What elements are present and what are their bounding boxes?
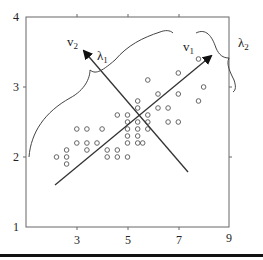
scatter-points <box>54 57 206 167</box>
v2-label: v2 <box>67 34 78 51</box>
data-point <box>64 148 69 153</box>
data-point <box>100 127 105 132</box>
data-point <box>146 78 151 83</box>
x-tick-label: 5 <box>125 233 131 247</box>
data-point <box>115 148 120 153</box>
data-point <box>64 155 69 160</box>
data-point <box>196 99 201 104</box>
x-tick-labels: 3 5 7 9 <box>74 231 232 247</box>
data-point <box>125 134 130 139</box>
data-point <box>135 120 140 125</box>
data-point <box>115 113 120 118</box>
data-point <box>156 92 161 97</box>
v1-arrow <box>55 56 211 185</box>
y-tick-label: 3 <box>13 80 19 94</box>
x-tick-label: 3 <box>74 233 80 247</box>
bottom-rule <box>0 254 263 257</box>
data-point <box>105 155 110 160</box>
x-tick-label: 9 <box>226 231 232 245</box>
data-point <box>125 141 130 146</box>
v2-arrow <box>84 51 188 172</box>
data-point <box>166 120 171 125</box>
data-point <box>176 120 181 125</box>
lambda1-label: λ1 <box>97 48 108 65</box>
data-point <box>135 127 140 132</box>
data-point <box>176 92 181 97</box>
data-point <box>85 148 90 153</box>
data-point <box>125 127 130 132</box>
data-point <box>115 155 120 160</box>
data-point <box>176 71 181 76</box>
data-point <box>64 162 69 167</box>
data-point <box>135 106 140 111</box>
y-tick-label: 1 <box>13 220 19 234</box>
data-point <box>196 57 201 62</box>
data-point <box>166 106 171 111</box>
data-point <box>95 141 100 146</box>
y-ticks <box>23 87 232 157</box>
y-tick-labels: 1 2 3 4 <box>13 10 19 234</box>
data-point <box>201 85 206 90</box>
v1-label: v1 <box>183 39 194 56</box>
data-point <box>135 99 140 104</box>
data-point <box>125 155 130 160</box>
lambda2-label: λ2 <box>238 35 249 52</box>
data-point <box>105 148 110 153</box>
data-point <box>135 141 140 146</box>
data-point <box>75 141 80 146</box>
data-point <box>156 106 161 111</box>
x-ticks <box>77 14 179 230</box>
x-tick-label: 7 <box>176 233 182 247</box>
y-tick-label: 4 <box>13 10 19 24</box>
y-tick-label: 2 <box>13 150 19 164</box>
pca-scatter-chart: 3 5 7 9 1 2 3 4 v2 λ1 v1 λ2 <box>0 0 263 260</box>
data-point <box>140 141 145 146</box>
data-point <box>146 113 151 118</box>
data-point <box>54 155 59 160</box>
data-point <box>135 134 140 139</box>
data-point <box>125 113 130 118</box>
data-point <box>75 127 80 132</box>
data-point <box>85 127 90 132</box>
data-point <box>85 141 90 146</box>
